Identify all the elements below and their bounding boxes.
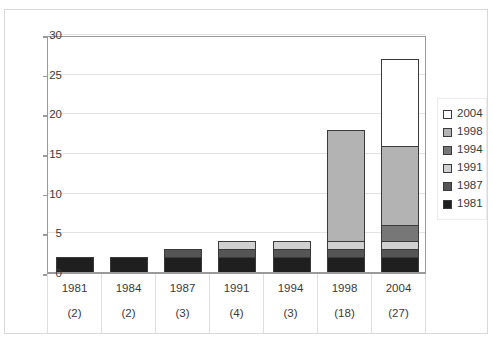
bar-segment-1998[interactable] — [381, 146, 419, 225]
x-axis-column: 2004(27) — [372, 274, 426, 334]
bar-slot — [319, 37, 373, 273]
bar-segment-1991[interactable] — [273, 241, 311, 249]
bar-segment-1987[interactable] — [218, 249, 256, 257]
bar-segment-1987[interactable] — [327, 249, 365, 257]
y-axis-tick-mark — [43, 155, 47, 157]
legend-label: 1991 — [457, 162, 483, 174]
bar-slot — [373, 37, 427, 273]
legend-label: 2004 — [457, 108, 483, 120]
legend-item[interactable]: 1994 — [443, 141, 483, 159]
bar-slot — [102, 37, 156, 273]
bar-segment-2004[interactable] — [381, 59, 419, 146]
legend-swatch-icon — [443, 182, 452, 191]
bar-segment-1994[interactable] — [381, 225, 419, 241]
y-axis-tick-label: 10 — [22, 188, 62, 200]
x-axis-count-label: (3) — [283, 307, 297, 319]
x-axis-category-label: 1987 — [170, 282, 196, 294]
x-axis-category-label: 1994 — [278, 282, 304, 294]
legend-swatch-icon — [443, 146, 452, 155]
bar-slot — [156, 37, 210, 273]
legend-swatch-icon — [443, 128, 452, 137]
x-axis-count-label: (3) — [175, 307, 189, 319]
bar-group — [48, 37, 425, 273]
stacked-bar[interactable] — [164, 249, 202, 273]
x-axis-label-table: 1981(2)1984(2)1987(3)1991(4)1994(3)1998(… — [47, 274, 426, 334]
y-axis-tick-mark — [43, 234, 47, 236]
bar-segment-1987[interactable] — [381, 249, 419, 257]
y-axis-tick-mark — [43, 76, 47, 78]
stacked-bar[interactable] — [381, 59, 419, 273]
x-axis-column: 1994(3) — [264, 274, 318, 334]
x-axis-category-label: 1984 — [116, 282, 142, 294]
y-axis-tick-label: 20 — [22, 108, 62, 120]
legend-label: 1994 — [457, 144, 483, 156]
x-axis-column: 1984(2) — [102, 274, 156, 334]
stacked-bar[interactable] — [273, 241, 311, 273]
x-axis-category-label: 1998 — [332, 282, 358, 294]
legend-swatch-icon — [443, 200, 452, 209]
legend-label: 1998 — [457, 126, 483, 138]
x-axis-count-label: (4) — [229, 307, 243, 319]
x-axis-category-label: 1991 — [224, 282, 250, 294]
legend-item[interactable]: 1981 — [443, 195, 483, 213]
stacked-bar[interactable] — [327, 130, 365, 273]
y-axis-tick-label: 5 — [22, 227, 62, 239]
bar-slot — [265, 37, 319, 273]
bar-segment-1998[interactable] — [327, 130, 365, 241]
bar-segment-1991[interactable] — [218, 241, 256, 249]
legend-item[interactable]: 1991 — [443, 159, 483, 177]
x-axis-column: 1991(4) — [210, 274, 264, 334]
x-axis-column: 1987(3) — [156, 274, 210, 334]
y-axis-tick-label: 30 — [22, 29, 62, 41]
x-axis-count-label: (2) — [67, 307, 81, 319]
chart-frame: 051015202530 1981(2)1984(2)1987(3)1991(4… — [4, 9, 488, 334]
x-axis-count-label: (18) — [334, 307, 354, 319]
gridline — [48, 34, 425, 35]
legend-swatch-icon — [443, 110, 452, 119]
legend-swatch-icon — [443, 164, 452, 173]
plot-area — [47, 36, 426, 274]
legend-item[interactable]: 1987 — [443, 177, 483, 195]
x-axis-column: 1981(2) — [47, 274, 102, 334]
x-axis-line — [48, 272, 425, 274]
y-axis-tick-mark — [43, 115, 47, 117]
y-axis-tick-label: 15 — [22, 148, 62, 160]
bar-segment-1991[interactable] — [327, 241, 365, 249]
legend-label: 1987 — [457, 180, 483, 192]
y-axis-tick-mark — [43, 36, 47, 38]
legend-item[interactable]: 2004 — [443, 105, 483, 123]
bar-slot — [210, 37, 264, 273]
bar-segment-1987[interactable] — [273, 249, 311, 257]
bar-segment-1991[interactable] — [381, 241, 419, 249]
legend-item[interactable]: 1998 — [443, 123, 483, 141]
y-axis-tick-mark — [43, 195, 47, 197]
x-axis-count-label: (27) — [388, 307, 408, 319]
legend-label: 1981 — [457, 198, 483, 210]
x-axis-category-label: 1981 — [62, 282, 88, 294]
x-axis-category-label: 2004 — [386, 282, 412, 294]
bar-segment-1987[interactable] — [164, 249, 202, 257]
x-axis-count-label: (2) — [121, 307, 135, 319]
x-axis-column: 1998(18) — [318, 274, 372, 334]
y-axis-tick-label: 25 — [22, 69, 62, 81]
chart-legend: 200419981994199119871981 — [437, 98, 487, 220]
stacked-bar[interactable] — [218, 241, 256, 273]
